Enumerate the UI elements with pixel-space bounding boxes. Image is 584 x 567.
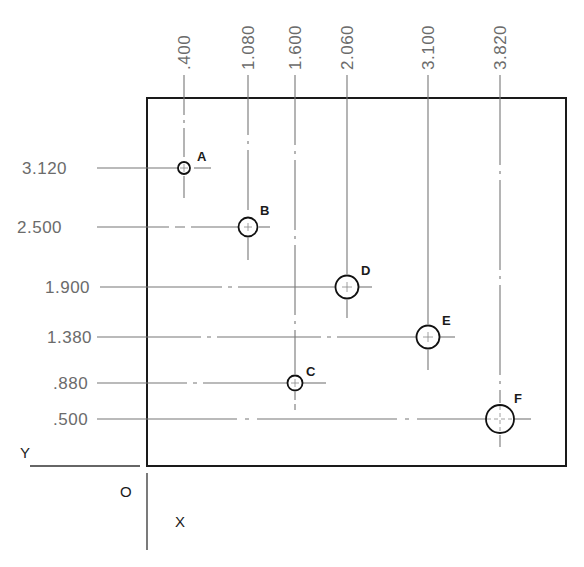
- hole-label-a: A: [197, 149, 207, 164]
- hole-label-d: D: [361, 263, 370, 278]
- hole-a: A: [178, 149, 207, 174]
- x-axis-label: X: [175, 513, 185, 530]
- x-dimension-d: 2.060: [338, 25, 357, 70]
- hole-f: F: [486, 391, 522, 433]
- y-dimensions: 3.120 2.500 1.900 1.380 .880 .500: [17, 159, 531, 429]
- origin-axes: Y O X: [20, 444, 185, 550]
- holes: A B C D E: [178, 149, 522, 433]
- y-dimension-c: .880: [53, 374, 88, 393]
- y-dimension-a: 3.120: [22, 159, 67, 178]
- y-axis-label: Y: [20, 444, 30, 461]
- x-dimension-a: .400: [175, 35, 194, 70]
- origin-label: O: [120, 483, 132, 500]
- hole-b: B: [239, 203, 270, 237]
- x-dimension-e: 3.100: [419, 25, 438, 70]
- coordinate-drawing: Y O X .400 1.080 1.600 2.060 3.100 3.820…: [0, 0, 584, 567]
- hole-label-e: E: [442, 313, 451, 328]
- y-dimension-d: 1.900: [45, 278, 90, 297]
- x-dimension-c: 1.600: [286, 25, 305, 70]
- hole-label-c: C: [306, 364, 316, 379]
- hole-label-b: B: [260, 203, 269, 218]
- hole-d: D: [336, 263, 371, 299]
- x-dimension-b: 1.080: [239, 25, 258, 70]
- y-dimension-b: 2.500: [17, 218, 62, 237]
- hole-e: E: [417, 313, 452, 349]
- x-dimensions: .400 1.080 1.600 2.060 3.100 3.820: [175, 25, 510, 447]
- x-dimension-f: 3.820: [491, 25, 510, 70]
- y-dimension-f: .500: [53, 410, 88, 429]
- y-dimension-e: 1.380: [47, 328, 92, 347]
- hole-c: C: [288, 364, 317, 391]
- hole-label-f: F: [514, 391, 522, 406]
